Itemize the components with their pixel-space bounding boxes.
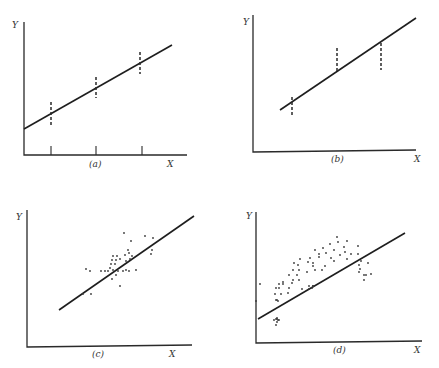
- y-axis-label-d: Y: [246, 211, 253, 221]
- caption-c: (c): [92, 349, 105, 359]
- x-axis-label-c: X: [168, 349, 176, 359]
- caption-b: (b): [331, 154, 344, 164]
- axes-b: [253, 15, 416, 152]
- regression-line-a: [24, 45, 172, 129]
- y-axis-label-c: Y: [16, 212, 23, 222]
- y-axis-label-a: Y: [12, 20, 19, 30]
- axes-d: [256, 212, 422, 343]
- panel-d: Y (d) X: [246, 211, 422, 355]
- panel-c: Y (c) X: [16, 210, 194, 359]
- scatter-points-d: [255, 236, 372, 326]
- axes-a: [24, 22, 187, 155]
- x-axis-label-b: X: [413, 154, 421, 164]
- regression-line-d: [258, 233, 405, 319]
- figure-canvas: Y (a) X Y (b) X: [0, 0, 439, 368]
- regression-line-c: [59, 216, 194, 310]
- y-axis-label-b: Y: [243, 17, 250, 27]
- caption-a: (a): [89, 159, 102, 169]
- panel-b: Y (b) X: [243, 15, 421, 164]
- axes-c: [27, 210, 192, 347]
- regression-line-b: [280, 18, 416, 110]
- caption-d: (d): [333, 345, 346, 355]
- x-axis-label-a: X: [166, 159, 174, 169]
- panel-a: Y (a) X: [12, 20, 187, 169]
- x-axis-label-d: X: [413, 345, 421, 355]
